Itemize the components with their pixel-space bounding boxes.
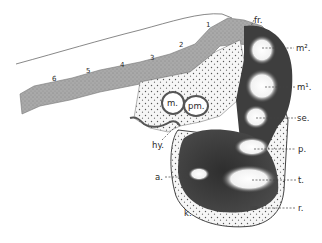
label-hy: hy. (152, 140, 164, 150)
label-p: p. (298, 144, 306, 154)
label-r: r. (298, 203, 303, 213)
label-se: se. (297, 113, 309, 123)
number-6: 6 (52, 75, 57, 83)
spot-se (243, 105, 269, 129)
spot-t (221, 165, 277, 193)
structure-r (250, 206, 258, 210)
label-m1: m¹. (297, 82, 311, 92)
label-t: t. (298, 175, 304, 185)
number-5: 5 (86, 67, 90, 75)
anatomical-diagram: 6 5 4 3 2 1 fr. m². m¹. se. p. t. r. a. … (0, 0, 322, 243)
spot-a (188, 167, 210, 181)
label-a: a. (155, 172, 163, 182)
label-m2: m². (296, 43, 310, 53)
label-pm: pm. (188, 101, 204, 111)
number-1: 1 (206, 21, 210, 29)
spot-m1 (245, 69, 279, 103)
number-2: 2 (179, 41, 183, 49)
number-4: 4 (120, 61, 125, 69)
label-k: k. (184, 208, 192, 218)
label-fr: fr. (254, 15, 262, 25)
number-3: 3 (150, 54, 154, 62)
label-m: m. (167, 98, 178, 108)
spot-m2 (248, 35, 276, 65)
spot-p (234, 137, 270, 157)
